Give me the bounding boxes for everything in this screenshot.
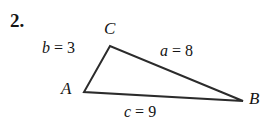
vertex-label-a: A: [61, 80, 71, 97]
vertex-label-b: B: [249, 90, 259, 107]
side-c-value: 9: [148, 103, 156, 120]
side-label-a: a = 8: [160, 43, 193, 59]
side-b-equals: =: [50, 39, 67, 56]
side-b-value: 3: [67, 39, 75, 56]
side-a-var: a: [160, 42, 168, 59]
problem-figure-page: 2. C A B b = 3 a = 8 c = 9: [0, 0, 274, 129]
side-a-equals: =: [168, 42, 185, 59]
side-c-equals: =: [131, 103, 148, 120]
side-label-b: b = 3: [42, 40, 75, 56]
side-a-value: 8: [185, 42, 193, 59]
side-label-c: c = 9: [124, 104, 156, 120]
side-b-var: b: [42, 39, 50, 56]
vertex-label-c: C: [104, 20, 115, 37]
